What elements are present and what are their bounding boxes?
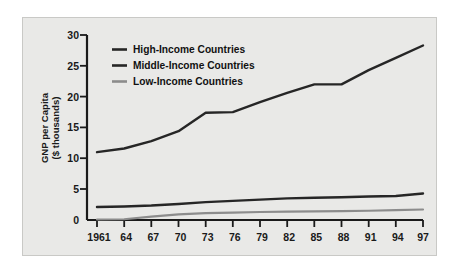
y-axis-title: GNP per Capita ($ thousands) (39, 92, 61, 163)
y-tick-label: 20 (67, 91, 79, 103)
y-axis-title-line1: GNP per Capita (39, 92, 50, 163)
x-tick-label: 76 (229, 231, 241, 243)
x-tick-label: 88 (338, 231, 350, 243)
y-tick-label: 10 (67, 152, 79, 164)
chart-figure: 30 25 20 15 10 5 0 GNP per Capita ($ tho… (22, 17, 437, 256)
x-tick-label: 94 (392, 231, 404, 243)
series-line-low-income (97, 210, 423, 220)
x-tick-label: 64 (120, 231, 132, 243)
y-tick-label: 15 (67, 121, 79, 133)
chart-legend: High-Income Countries Middle-Income Coun… (112, 44, 255, 87)
legend-label-high-income: High-Income Countries (133, 44, 245, 55)
x-tick-label: 97 (417, 231, 429, 243)
y-tick-label: 30 (67, 29, 79, 41)
x-tick-label: 79 (256, 231, 268, 243)
y-axis-tick-labels: 30 25 20 15 10 5 0 (67, 29, 79, 226)
y-tick-label: 25 (67, 60, 79, 72)
x-axis-tick-labels: 1961 64 67 70 73 76 79 82 85 88 91 94 97 (87, 231, 429, 243)
y-tick-label: 0 (73, 214, 79, 226)
x-tick-label: 73 (202, 231, 214, 243)
y-tick-label: 5 (73, 183, 79, 195)
y-axis-title-line2: ($ thousands) (50, 97, 61, 160)
x-tick-label: 82 (283, 231, 295, 243)
legend-label-low-income: Low-Income Countries (133, 76, 243, 87)
x-tick-label: 91 (365, 231, 377, 243)
series-line-middle-income (97, 193, 423, 207)
x-tick-label: 70 (175, 231, 187, 243)
legend-label-middle-income: Middle-Income Countries (133, 60, 255, 71)
x-tick-label: 1961 (87, 231, 111, 243)
x-tick-label: 67 (147, 231, 159, 243)
line-chart: 30 25 20 15 10 5 0 GNP per Capita ($ tho… (23, 18, 436, 255)
x-tick-label: 85 (310, 231, 322, 243)
